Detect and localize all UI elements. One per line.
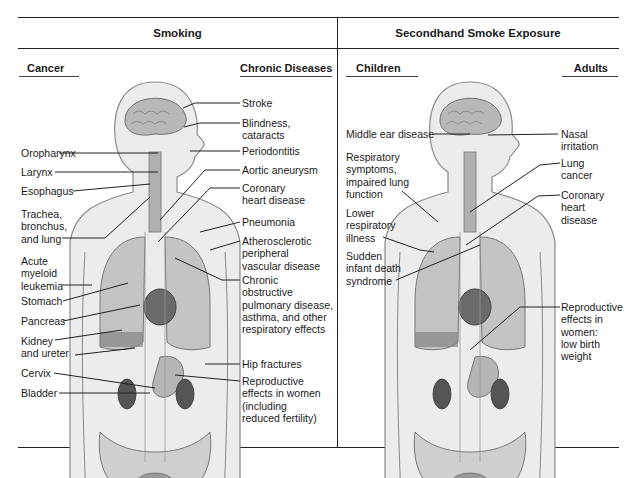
label-blindness-cataracts: Blindness, cataracts [242, 117, 290, 142]
label-stomach: Stomach [21, 295, 62, 307]
label-reproductive-smoking: Reproductive effects in women (including… [242, 375, 321, 424]
label-coronary-heart-disease: Coronary heart disease [242, 182, 305, 207]
label-nasal-irritation: Nasal irritation [561, 128, 598, 153]
label-larynx: Larynx [21, 166, 53, 178]
label-periodontitis: Periodontitis [242, 145, 300, 157]
label-sids: Sudden infant death syndrome [346, 250, 401, 287]
label-coronary-heart-disease-adults: Coronary heart disease [561, 189, 604, 226]
label-atherosclerotic: Atherosclerotic peripheral vascular dise… [242, 235, 320, 272]
label-middle-ear-disease: Middle ear disease [346, 128, 434, 140]
label-pneumonia: Pneumonia [242, 216, 295, 228]
label-oropharynx: Oropharynx [21, 147, 76, 159]
label-aortic-aneurysm: Aortic aneurysm [242, 164, 318, 176]
label-acute-myeloid-leukemia: Acute myeloid leukemia [21, 255, 63, 292]
label-lung-cancer: Lung cancer [561, 157, 593, 182]
label-lower-respiratory-illness: Lower respiratory illness [346, 207, 396, 244]
label-hip-fractures: Hip fractures [242, 358, 302, 370]
label-kidney-ureter: Kidney and ureter [21, 335, 69, 360]
label-stroke: Stroke [242, 97, 272, 109]
label-trachea-bronchus-lung: Trachea, bronchus, and lung [21, 208, 67, 245]
label-esophagus: Esophagus [21, 185, 74, 197]
label-cervix: Cervix [21, 367, 51, 379]
label-bladder: Bladder [21, 387, 57, 399]
label-reproductive-secondhand: Reproductive effects in women: low birth… [561, 301, 623, 362]
label-copd: Chronic obstructive pulmonary disease, a… [242, 274, 333, 335]
label-respiratory-symptoms: Respiratory symptoms, impaired lung func… [346, 151, 409, 200]
label-pancreas: Pancreas [21, 315, 65, 327]
